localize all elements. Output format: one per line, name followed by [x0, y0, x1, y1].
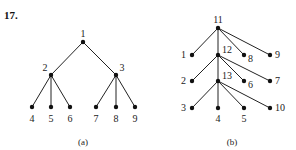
tree-node-dot: [216, 53, 220, 57]
tree-node-dot: [216, 26, 220, 30]
node-label: 5: [49, 113, 54, 124]
node-label: 2: [43, 62, 48, 73]
node-label: 8: [114, 113, 119, 124]
node-label: 1: [81, 28, 86, 39]
node-label: 3: [181, 102, 186, 113]
problem-number: 17.: [4, 9, 18, 21]
tree-node-dot: [114, 105, 118, 109]
tree-edge: [51, 75, 70, 107]
tree-edge: [218, 81, 270, 108]
tree-edge: [32, 75, 51, 107]
tree-edge: [192, 81, 218, 108]
tree-diagram-canvas: 17. 123456789 11121318926734510 (a) (b): [0, 0, 296, 150]
node-label: 6: [248, 79, 253, 90]
tree-node-dot: [190, 79, 194, 83]
node-label: 7: [94, 113, 99, 124]
node-label: 1: [181, 49, 186, 60]
node-label: 10: [275, 102, 285, 113]
tree-a: 123456789: [30, 28, 138, 124]
node-label: 7: [275, 75, 280, 86]
node-label: 9: [275, 49, 280, 60]
tree-node-dot: [268, 106, 272, 110]
tree-node-dot: [190, 53, 194, 57]
node-label: 2: [181, 75, 186, 86]
tree-node-dot: [30, 105, 34, 109]
tree-edge: [192, 55, 218, 81]
node-label: 5: [242, 113, 247, 124]
tree-node-dot: [242, 106, 246, 110]
tree-b: 11121318926734510: [181, 14, 285, 124]
node-label: 9: [133, 113, 138, 124]
node-label: 3: [120, 62, 125, 73]
tree-node-dot: [268, 53, 272, 57]
tree-edge: [51, 42, 83, 75]
tree-node-dot: [268, 79, 272, 83]
tree-node-dot: [49, 73, 53, 77]
tree-node-dot: [216, 106, 220, 110]
tree-edge: [96, 75, 116, 107]
tree-node-dot: [114, 73, 118, 77]
node-label: 11: [213, 14, 223, 25]
tree-node-dot: [242, 79, 246, 83]
tree-node-dot: [190, 106, 194, 110]
tree-edge: [192, 28, 218, 55]
tree-node-dot: [242, 53, 246, 57]
tree-edge: [83, 42, 116, 75]
node-label: 4: [216, 113, 221, 124]
tree-node-dot: [94, 105, 98, 109]
caption-b: (b): [227, 137, 238, 147]
tree-node-dot: [81, 40, 85, 44]
caption-a: (a): [78, 137, 88, 147]
node-label: 13: [222, 70, 232, 81]
tree-edge: [218, 81, 244, 108]
tree-node-dot: [133, 105, 137, 109]
tree-node-dot: [49, 105, 53, 109]
node-label: 8: [248, 53, 253, 64]
tree-edge: [116, 75, 135, 107]
node-label: 6: [68, 113, 73, 124]
node-label: 12: [222, 44, 232, 55]
tree-node-dot: [68, 105, 72, 109]
tree-node-dot: [216, 79, 220, 83]
node-label: 4: [30, 113, 35, 124]
